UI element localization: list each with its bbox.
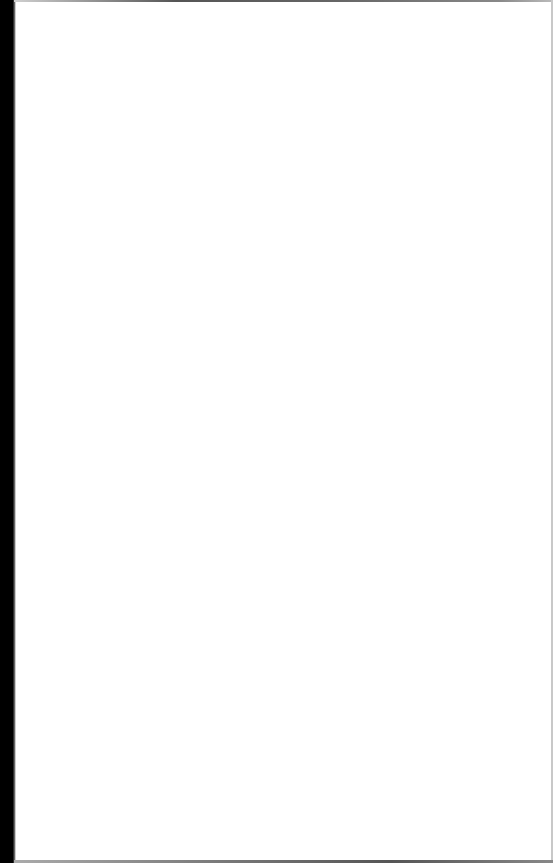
top-scan-border [14, 0, 553, 2]
binding-edge-shadow [0, 0, 14, 863]
scanned-page [0, 0, 553, 863]
blank-page-area [16, 3, 550, 859]
